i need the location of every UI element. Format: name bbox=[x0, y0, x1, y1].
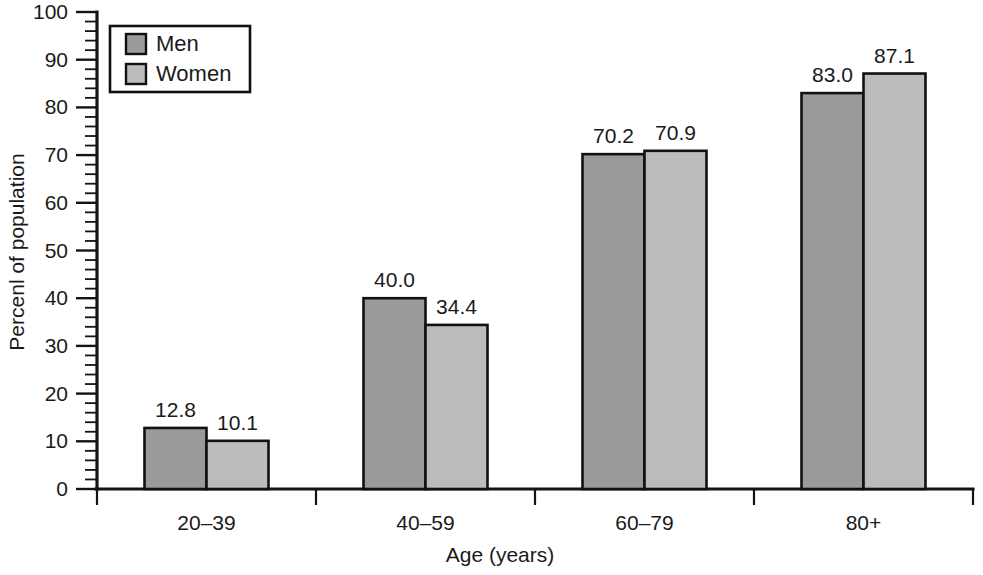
x-axis-ticks bbox=[97, 489, 973, 505]
y-axis-tick-label: 90 bbox=[45, 48, 68, 71]
chart-legend: MenWomen bbox=[110, 26, 250, 92]
y-axis-tick-label: 70 bbox=[45, 143, 68, 166]
y-axis-title: Percenl of population bbox=[5, 153, 28, 350]
x-axis-tick-label: 80+ bbox=[846, 511, 882, 534]
y-axis-tick-label: 40 bbox=[45, 286, 68, 309]
bar-value-label: 83.0 bbox=[812, 63, 853, 86]
bar bbox=[802, 93, 864, 489]
y-axis-tick-label: 10 bbox=[45, 429, 68, 452]
bar bbox=[864, 74, 926, 489]
bar bbox=[145, 428, 207, 489]
y-axis-tick-label: 80 bbox=[45, 95, 68, 118]
y-axis-tick-label: 20 bbox=[45, 382, 68, 405]
y-axis-tick-label: 60 bbox=[45, 191, 68, 214]
bar bbox=[426, 325, 488, 489]
y-axis-tick-label: 50 bbox=[45, 239, 68, 262]
chart-canvas: 0102030405060708090100 20–3940–5960–7980… bbox=[0, 0, 983, 575]
x-axis-title: Age (years) bbox=[446, 543, 555, 566]
bar-value-label: 87.1 bbox=[874, 44, 915, 67]
bar-value-label: 10.1 bbox=[217, 411, 258, 434]
x-axis-tick-label: 40–59 bbox=[396, 511, 454, 534]
bar bbox=[364, 298, 426, 489]
x-axis-tick-label: 20–39 bbox=[177, 511, 235, 534]
bar-value-label: 70.2 bbox=[593, 124, 634, 147]
bar bbox=[207, 441, 269, 489]
y-axis-tick-label: 30 bbox=[45, 334, 68, 357]
bar-series-group bbox=[145, 74, 926, 489]
y-axis: 0102030405060708090100 bbox=[33, 0, 97, 500]
y-axis-tick-label: 100 bbox=[33, 0, 68, 23]
bar-value-label: 12.8 bbox=[155, 398, 196, 421]
legend-label: Men bbox=[156, 31, 199, 56]
legend-swatch bbox=[126, 34, 146, 54]
bar-chart: 0102030405060708090100 20–3940–5960–7980… bbox=[0, 0, 983, 575]
legend-label: Women bbox=[156, 61, 231, 86]
x-axis-tick-label: 60–79 bbox=[615, 511, 673, 534]
bar-value-label: 34.4 bbox=[436, 295, 477, 318]
y-axis-tick-label: 0 bbox=[56, 477, 68, 500]
legend-swatch bbox=[126, 64, 146, 84]
y-axis-tick-labels: 0102030405060708090100 bbox=[33, 0, 68, 500]
bar bbox=[645, 151, 707, 489]
bar bbox=[583, 154, 645, 489]
x-axis: 20–3940–5960–7980+ bbox=[96, 489, 973, 534]
bar-value-label: 40.0 bbox=[374, 268, 415, 291]
x-axis-tick-labels: 20–3940–5960–7980+ bbox=[177, 511, 881, 534]
bar-value-label: 70.9 bbox=[655, 121, 696, 144]
y-axis-major-ticks bbox=[76, 12, 96, 489]
